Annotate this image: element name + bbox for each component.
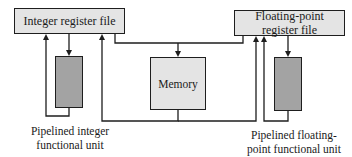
integer-functional-unit [55,56,83,108]
integer-unit-caption-line1: Pipelined integer [14,124,126,138]
arrowhead-up-icon [99,34,105,40]
integer-register-file: Integer register file [14,8,125,34]
fp-register-file-label-line1: Floating-point [255,9,324,23]
integer-register-file-label: Integer register file [24,14,116,28]
arrowhead-up-icon [253,36,259,42]
integer-unit-caption-line2: functional unit [14,138,126,152]
fp-functional-unit [274,57,302,111]
fp-register-file-label-line2: register file [262,23,317,37]
memory-block: Memory [150,57,206,110]
fp-unit-caption-line2: point functional unit [236,142,352,156]
fp-unit-caption-line1: Pipelined floating- [236,128,352,142]
memory-label: Memory [158,78,198,90]
fp-unit-caption: Pipelined floating- point functional uni… [236,128,352,156]
floating-point-register-file: Floating-point register file [234,10,345,36]
integer-unit-caption: Pipelined integer functional unit [14,124,126,152]
regfile-to-memory-bus [115,34,243,43]
arrowhead-up-icon [43,34,49,40]
